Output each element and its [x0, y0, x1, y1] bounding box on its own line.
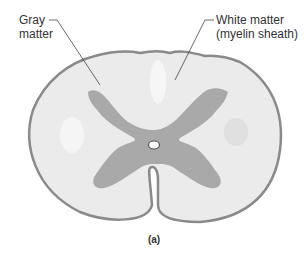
- white-matter-patch-left: [60, 117, 84, 153]
- white-matter-patch-right: [224, 118, 248, 146]
- central-canal: [149, 141, 160, 149]
- gray-matter-label: Gray matter: [19, 13, 53, 41]
- gray-matter-label-line2: matter: [19, 27, 53, 41]
- white-matter-label: White matter (myelin sheath): [216, 13, 298, 41]
- white-matter-label-line1: White matter: [216, 13, 298, 27]
- white-matter-patch-top: [150, 60, 166, 104]
- white-matter-label-line2: (myelin sheath): [216, 27, 298, 41]
- gray-matter-label-line1: Gray: [19, 13, 53, 27]
- figure-caption: (a): [0, 234, 308, 245]
